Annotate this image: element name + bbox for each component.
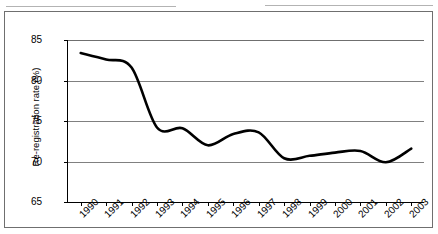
series-line-chart [68, 40, 424, 202]
y-tick-mark-70 [64, 162, 68, 163]
chart-figure-frame: Re-registration rate (%) 858075706519901… [4, 11, 433, 228]
x-tick-mark-1992 [132, 202, 133, 206]
y-tick-mark-85 [64, 40, 68, 41]
y-tick-label-65: 65 [16, 197, 42, 207]
artifact-rule-right [265, 5, 433, 6]
y-tick-label-75: 75 [16, 116, 42, 126]
y-tick-mark-75 [64, 121, 68, 122]
x-tick-mark-1999 [310, 202, 311, 206]
y-tick-label-70: 70 [16, 157, 42, 167]
y-tick-mark-80 [64, 81, 68, 82]
series-line-re-registration-rate [81, 53, 412, 162]
x-tick-mark-1997 [259, 202, 260, 206]
y-tick-label-80: 80 [16, 76, 42, 86]
y-tick-label-85: 85 [16, 35, 42, 45]
y-tick-mark-65 [64, 202, 68, 203]
x-tick-mark-1990 [81, 202, 82, 206]
artifact-rule-left [6, 6, 176, 7]
plot-area: 8580757065199019911992199319941995199619… [67, 40, 424, 203]
